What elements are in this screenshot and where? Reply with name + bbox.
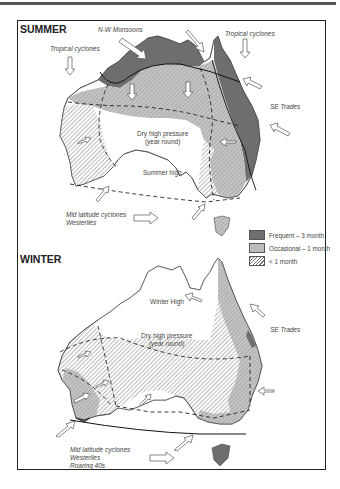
legend-item-less: < 1 month [249, 255, 330, 267]
arrow-tropical-east [240, 39, 250, 58]
arrow-westerlies-summer [134, 212, 158, 224]
arrow-tropical-west [65, 57, 75, 75]
legend-item-occasional: Occasional – 1 month [249, 242, 330, 254]
label-nw-monsoons: N-W Monsoons [98, 26, 143, 34]
legend: Frequent – 3 month Occasional – 1 month … [249, 229, 330, 268]
winter-tasmania [212, 444, 230, 466]
label-dry-high-winter: Dry high pressure (year round) [141, 332, 192, 348]
label-midlat-winter: Mid latitude cyclones Westerlies Roaring… [70, 446, 130, 470]
label-midlat-summer: Mid latitude cyclones Westerlies [66, 211, 126, 227]
label-midlat-winter-line2: Westerlies [70, 454, 130, 462]
arrow-winter-westerlies [150, 452, 174, 464]
arrow-se-trades-1 [243, 77, 262, 89]
label-se-trades-winter: SE Trades [270, 326, 300, 334]
legend-item-frequent: Frequent – 3 month [249, 229, 330, 241]
summer-title: SUMMER [20, 23, 67, 35]
label-se-trades-summer: SE Trades [270, 103, 300, 111]
label-midlat-summer-line2: Westerlies [66, 219, 126, 227]
arrow-midlat-se [192, 204, 205, 220]
label-dry-high-summer-line1: Dry high pressure [137, 130, 188, 138]
legend-label-occasional: Occasional – 1 month [269, 245, 330, 252]
arrow-winter-midlat-sw [56, 421, 75, 437]
label-midlat-winter-line3: Roaring 40s [70, 462, 130, 470]
label-winter-high: Winter High [150, 298, 184, 306]
legend-swatch-occasional [249, 243, 265, 253]
legend-label-frequent: Frequent – 3 month [269, 232, 324, 239]
label-tropical-cyclones-west: Tropical cyclones [50, 45, 100, 53]
legend-label-less: < 1 month [269, 258, 297, 265]
label-summer-high: Summer high [143, 169, 182, 177]
label-tropical-cyclones-east: Tropical cyclones [225, 30, 275, 38]
arrow-winter-midlat-se [174, 435, 193, 451]
label-midlat-winter-line1: Mid latitude cyclones [70, 446, 130, 454]
winter-map [56, 258, 274, 466]
winter-title: WINTER [20, 253, 61, 265]
label-dry-high-winter-line1: Dry high pressure [141, 332, 192, 340]
legend-swatch-frequent [249, 230, 265, 240]
label-midlat-summer-line1: Mid latitude cyclones [66, 211, 126, 219]
legend-swatch-less [249, 256, 265, 266]
arrow-winter-east-in [258, 387, 274, 395]
arrow-se-trades-2 [270, 123, 290, 136]
label-dry-high-summer: Dry high pressure (year round) [137, 130, 188, 146]
arrow-winter-se-trades [250, 304, 265, 317]
summer-tasmania [214, 216, 230, 236]
label-dry-high-winter-line2: (year round) [141, 340, 192, 348]
label-dry-high-summer-line2: (year round) [137, 138, 188, 146]
